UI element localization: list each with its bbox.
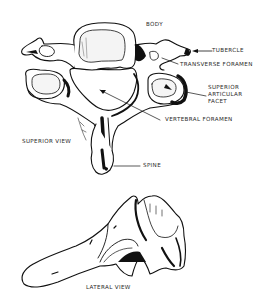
superior-view-drawing: [22, 23, 212, 174]
caption-superior-view: SUPERIOR VIEW: [22, 139, 71, 145]
label-facet-line-2: ARTICULAR: [208, 91, 258, 98]
label-transverse-foramen: TRANSVERSE FORAMEN: [180, 62, 253, 68]
label-facet-line-3: FACET: [208, 98, 258, 105]
vertebra-illustration: [0, 0, 280, 304]
left-transverse-process: [22, 38, 74, 68]
lateral-vertebra-outline: [22, 196, 186, 287]
caption-lateral-view: LATERAL VIEW: [86, 285, 131, 291]
label-spine: SPINE: [143, 163, 161, 169]
vertebral-foramen: [70, 68, 137, 110]
label-body: BODY: [146, 22, 163, 28]
lateral-view-drawing: [22, 196, 186, 287]
label-vertebral-foramen: VERTEBRAL FORAMEN: [165, 117, 233, 123]
label-facet-line-1: SUPERIOR: [208, 84, 258, 91]
label-tubercle: TUBERCLE: [212, 48, 244, 54]
label-superior-articular-facet: SUPERIOR ARTICULAR FACET: [208, 84, 258, 105]
